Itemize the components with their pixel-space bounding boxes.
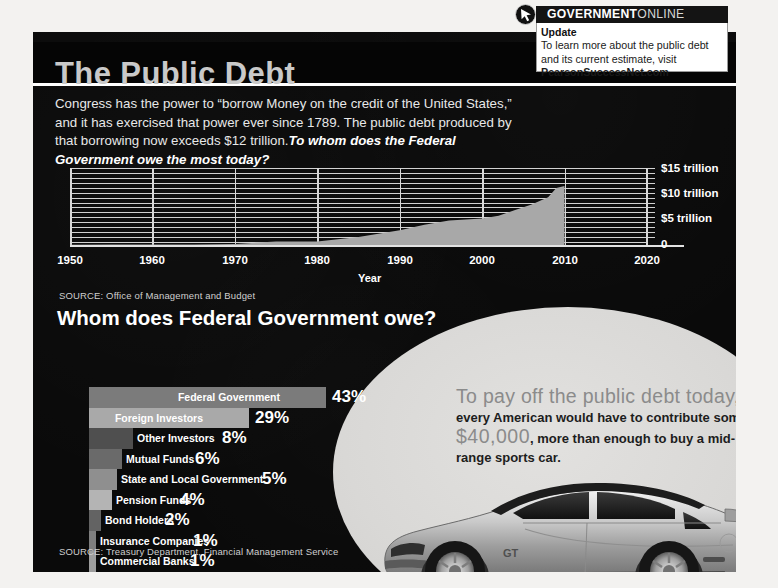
callout-mid: every American would have to contribute …	[456, 410, 736, 425]
y-tick-15: $15 trillion	[661, 162, 719, 174]
bar-label-mutual-funds: Mutual Funds	[126, 453, 194, 465]
y-tick-10: $10 trillion	[661, 187, 719, 199]
svg-text:GT: GT	[503, 547, 519, 559]
y-tick-0: 0	[661, 238, 667, 250]
x-tick-2000: 2000	[469, 254, 495, 266]
table-row: Federal Government 43%	[89, 387, 409, 408]
bar-value-mutual-funds: 6%	[195, 449, 220, 469]
government-online-body: To learn more about the public debt and …	[541, 39, 723, 80]
sports-car-illustration: GT	[373, 457, 736, 572]
public-debt-area-chart: $15 trillion $10 trillion $5 trillion 0 …	[33, 162, 736, 297]
table-row: Mutual Funds 6%	[89, 449, 409, 470]
table-row: State and Local Government 5%	[89, 469, 409, 490]
bar-label-other-investors: Other Investors	[137, 432, 215, 444]
bar-state-and-local-government	[89, 469, 117, 490]
source-note-bottom: SOURCE: Treasury Department, Financial M…	[59, 546, 338, 557]
pearson-link[interactable]: PearsonSuccessNet.com	[541, 66, 669, 78]
debt-holders-bar-chart: Federal Government 43% Foreign Investors…	[89, 387, 409, 572]
x-axis-title: Year	[358, 272, 381, 284]
table-row: Foreign Investors 29%	[89, 408, 409, 429]
pay-off-callout: To pay off the public debt today, every …	[456, 387, 736, 467]
bar-other-investors	[89, 428, 133, 449]
intro-paragraph: Congress has the power to “borrow Money …	[55, 95, 525, 169]
bar-bond-holders	[89, 510, 101, 531]
x-tick-1990: 1990	[387, 254, 413, 266]
x-tick-2020: 2020	[634, 254, 660, 266]
bar-label-foreign-investors: Foreign Investors	[115, 412, 203, 424]
main-dark-panel: The Public Debt Congress has the power t…	[33, 32, 736, 572]
bar-value-other-investors: 8%	[222, 428, 247, 448]
bar-value-foreign-investors: 29%	[255, 408, 289, 428]
bar-mutual-funds	[89, 449, 122, 470]
source-note-top: SOURCE: Office of Management and Budget	[59, 290, 255, 301]
debt-area-series	[70, 168, 647, 246]
bar-value-federal-government: 43%	[332, 387, 366, 407]
y-axis-ticks	[647, 168, 657, 246]
x-tick-1980: 1980	[304, 254, 330, 266]
table-row: Bond Holders 2%	[89, 510, 409, 531]
bar-value-state-and-local-government: 5%	[262, 469, 287, 489]
bar-value-pension-funds: 4%	[180, 490, 205, 510]
bar-label-bond-holders: Bond Holders	[105, 514, 174, 526]
bar-value-bond-holders: 2%	[165, 510, 190, 530]
y-tick-5: $5 trillion	[661, 212, 712, 224]
government-online-title: GOVERNMENTONLINE	[547, 7, 685, 21]
x-tick-1950: 1950	[57, 254, 83, 266]
x-tick-1960: 1960	[139, 254, 165, 266]
infographic-page: The Public Debt Congress has the power t…	[0, 0, 778, 588]
brand-bold: GOVERNMENT	[547, 7, 637, 21]
table-row: Other Investors 8%	[89, 428, 409, 449]
x-tick-1970: 1970	[222, 254, 248, 266]
update-label: Update	[541, 26, 577, 38]
bar-label-state-and-local-government: State and Local Government	[121, 473, 263, 485]
section-heading: Whom does Federal Government owe?	[57, 306, 436, 330]
table-row: Pension Funds 4%	[89, 490, 409, 511]
cursor-arrow-icon	[515, 4, 536, 25]
callout-amount: $40,000	[456, 425, 530, 447]
bar-label-federal-government: Federal Government	[178, 391, 280, 403]
x-axis-line	[70, 245, 684, 247]
callout-lead: To pay off the public debt today,	[456, 385, 736, 407]
bar-pension-funds	[89, 490, 112, 511]
online-body-text: To learn more about the public debt and …	[541, 39, 709, 65]
x-tick-2010: 2010	[552, 254, 578, 266]
page-title: The Public Debt	[55, 56, 295, 92]
brand-light: ONLINE	[637, 7, 684, 21]
